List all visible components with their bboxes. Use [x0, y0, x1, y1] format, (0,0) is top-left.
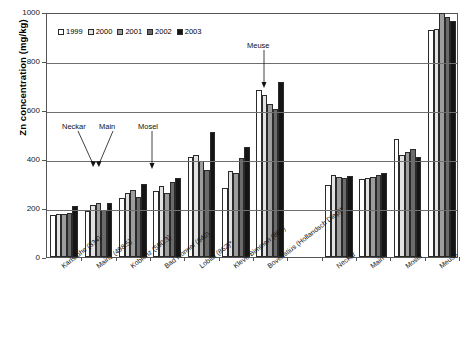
x-axis-label: Main: [369, 255, 385, 270]
x-axis-label: Neckar: [335, 250, 357, 269]
zn-concentration-bar-chart: Zn concentration (mg/kg) 020040060080010…: [0, 0, 468, 340]
x-axis-label: Meuse: [438, 251, 459, 269]
x-axis-label: Lobith (862)*: [198, 239, 234, 269]
x-axis-label: Mosel: [404, 252, 423, 269]
x-axis-labels: Karlsruhe (334)Mainz (498.5)Koblenz (590…: [0, 0, 468, 340]
x-axis-label: Bovenstius (Hollandsch Diep)*: [266, 206, 345, 270]
x-axis-label: Mainz (498.5): [95, 238, 133, 270]
